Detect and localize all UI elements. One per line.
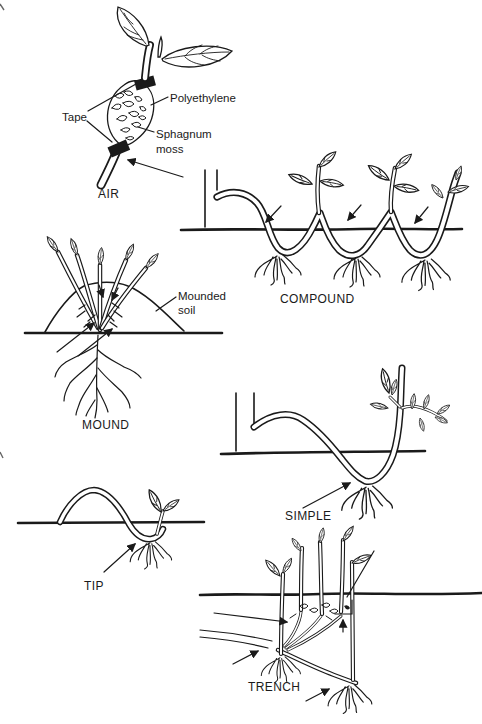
leaf: [418, 417, 426, 431]
mounded-soil-label-line1: Mounded: [178, 290, 226, 302]
leaf: [370, 402, 389, 411]
diagram-svg: Tape Polyethylene Sphagnum moss AIR: [0, 0, 482, 724]
leaf: [390, 379, 399, 396]
air-caption: AIR: [98, 187, 119, 201]
leaf: [287, 171, 313, 187]
leaf: [379, 368, 393, 394]
root-cluster: [402, 259, 450, 291]
air-layering-figure: Tape Polyethylene Sphagnum moss AIR: [62, 7, 236, 201]
root-cluster: [261, 657, 300, 683]
leaf: [290, 537, 303, 552]
leaf: [281, 557, 294, 574]
soil-line: [18, 522, 204, 523]
sphagnum-label-line2: moss: [156, 143, 184, 155]
root-cluster: [334, 257, 380, 287]
mound-layering-figure: Mounded soil MOUND: [25, 235, 226, 432]
trench-shoots: [263, 525, 372, 680]
leaf: [144, 252, 160, 270]
leaf: [317, 149, 338, 169]
polyethylene-label: Polyethylene: [170, 92, 236, 104]
root-cluster: [130, 542, 171, 569]
mound-caption: MOUND: [82, 418, 129, 432]
simple-layering-figure: SIMPLE: [221, 368, 451, 523]
leaf: [124, 243, 136, 261]
sphagnum-label-line1: Sphagnum: [156, 128, 212, 140]
compound-layering-figure: COMPOUND: [181, 149, 469, 306]
trench-caption: TRENCH: [248, 680, 300, 694]
leaf: [162, 45, 232, 67]
buried-moss-texture: [290, 603, 338, 620]
leaf: [263, 558, 282, 578]
bud: [158, 37, 162, 57]
leaf: [97, 247, 104, 265]
buried-parent-branch: [200, 630, 272, 648]
leaf: [117, 7, 149, 46]
tip-arrow: [104, 544, 135, 572]
leaf: [430, 183, 445, 200]
mounded-soil-label-line2: soil: [178, 304, 195, 316]
root-nub: [344, 605, 350, 609]
root-system: [55, 335, 141, 418]
leaf: [341, 525, 356, 543]
mounded-soil-pointer: [156, 297, 176, 311]
leaf: [319, 177, 344, 188]
root-cluster: [328, 685, 372, 714]
layering-propagation-diagram: Tape Polyethylene Sphagnum moss AIR: [0, 0, 482, 724]
compound-arrows: [266, 205, 428, 223]
tip-layering-figure: TIP: [18, 488, 204, 593]
leaf: [161, 497, 180, 513]
leaf: [393, 152, 414, 172]
leaf: [45, 235, 60, 254]
scan-artifact-tick: [0, 452, 3, 458]
tip-caption: TIP: [84, 579, 104, 593]
leaf: [146, 488, 164, 514]
polyethylene-pouch: [107, 81, 153, 146]
root-cluster: [255, 255, 301, 285]
root-cluster: [342, 486, 393, 519]
tape-label: Tape: [62, 111, 87, 123]
parent-trunk: [236, 393, 254, 451]
compound-caption: COMPOUND: [280, 292, 355, 306]
soil-line: [181, 229, 462, 230]
leaf: [393, 182, 419, 194]
leaf: [366, 163, 391, 183]
trench-layering-figure: TRENCH: [200, 525, 482, 714]
leaf: [436, 403, 451, 416]
simple-caption: SIMPLE: [285, 509, 331, 523]
scan-artifact-tick: [0, 4, 4, 10]
